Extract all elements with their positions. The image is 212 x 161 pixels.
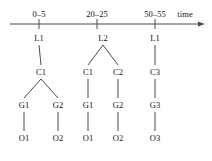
tree-edge-C1-to-G1 [24,79,41,98]
tree-node-n1-L1: L1 [34,34,44,43]
tree-node-n11-G2: G2 [113,101,124,110]
axis-tick-label-2: 20–25 [86,10,108,19]
tree-node-n9-G2: G2 [53,101,64,110]
tree-node-n8-G1: G1 [19,101,30,110]
tree-node-n5-C1: C1 [83,68,93,77]
tree-node-n12-G3: G3 [150,101,161,110]
tree-node-n3-L1: L1 [150,34,160,43]
tree-node-n7-C3: C3 [150,68,160,77]
diagram-canvas: 0–520–2550–55timeL1L2L1C1C1C2C3G1G2G1G2G… [0,0,212,161]
tree-node-n6-C2: C2 [113,68,123,77]
tree-node-n15-O1: O1 [83,134,94,143]
tree-edge-L2-to-C1 [88,45,103,65]
tree-node-n10-G1: G1 [83,101,94,110]
tree-node-n4-C1: C1 [36,68,46,77]
diagram-vector-layer [0,0,212,161]
tree-node-n13-O1: O1 [19,134,30,143]
time-axis-caption: time [177,10,193,19]
time-axis-group [10,19,205,29]
time-axis-arrowhead [198,21,205,26]
tree-edge-L2-to-C2 [103,45,118,65]
tree-edges-group [24,45,155,131]
tree-node-n14-O2: O2 [53,134,64,143]
tree-edge-C1-to-G2 [41,79,58,98]
tree-edge-L1-to-C1 [39,45,41,65]
tree-node-n17-O3: O3 [150,134,161,143]
axis-tick-label-3: 50–55 [144,10,166,19]
tree-node-n16-O2: O2 [113,134,124,143]
tree-node-n2-L2: L2 [98,34,108,43]
axis-tick-label-1: 0–5 [32,10,45,19]
